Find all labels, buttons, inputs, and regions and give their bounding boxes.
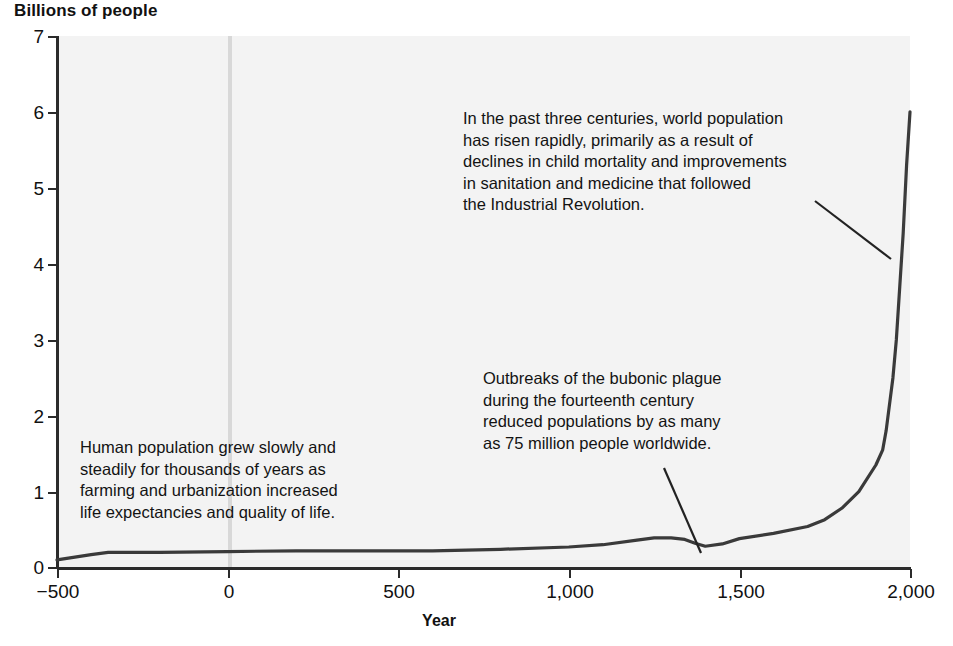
x-tick-2000 (910, 569, 912, 578)
annotation-bubonic-plague: Outbreaks of the bubonic plague during t… (483, 368, 853, 454)
x-axis-title: Year (0, 612, 953, 630)
y-tick-label-7: 7 (4, 27, 44, 46)
y-tick-0 (48, 567, 57, 569)
y-tick-label-6: 6 (4, 103, 44, 122)
x-tick-label-500: 500 (339, 582, 459, 601)
y-tick-1 (48, 492, 57, 494)
x-tick-label-2000: 2,000 (851, 582, 953, 601)
chart-figure: Billions of people 7 6 5 4 3 2 1 0 −500 … (0, 0, 953, 646)
x-tick-label-1500: 1,500 (681, 582, 801, 601)
y-axis-title: Billions of people (14, 1, 157, 21)
y-tick-label-2: 2 (4, 407, 44, 426)
x-tick-0 (228, 569, 230, 578)
y-tick-label-4: 4 (4, 255, 44, 274)
y-axis-line (56, 36, 59, 569)
y-tick-4 (48, 264, 57, 266)
x-axis-line (57, 567, 911, 570)
y-tick-label-0: 0 (4, 558, 44, 577)
y-tick-label-1: 1 (4, 483, 44, 502)
annotation-modern-growth: In the past three centuries, world popul… (463, 108, 883, 216)
y-tick-label-5: 5 (4, 179, 44, 198)
y-tick-6 (48, 112, 57, 114)
x-tick-label-neg500: −500 (0, 582, 118, 601)
y-tick-3 (48, 340, 57, 342)
x-tick-label-1000: 1,000 (510, 582, 630, 601)
annotation-slow-growth: Human population grew slowly and steadil… (80, 437, 450, 523)
x-tick-1000 (569, 569, 571, 578)
y-tick-2 (48, 416, 57, 418)
x-axis-title-text: Year (422, 612, 456, 630)
x-tick-500 (398, 569, 400, 578)
y-tick-7 (48, 36, 57, 38)
x-tick-neg500 (57, 569, 59, 578)
y-tick-5 (48, 188, 57, 190)
x-tick-label-0: 0 (169, 582, 289, 601)
y-tick-label-3: 3 (4, 331, 44, 350)
x-tick-1500 (740, 569, 742, 578)
